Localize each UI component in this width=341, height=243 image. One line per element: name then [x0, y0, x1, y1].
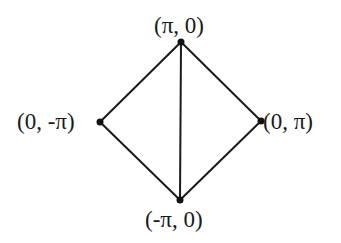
node-top [178, 39, 185, 46]
node-label-left: (0, -π) [17, 110, 75, 133]
edge-top-right [181, 42, 261, 121]
node-label-top: (π, 0) [154, 14, 204, 37]
node-label-right: (0, π) [263, 110, 313, 133]
edges [100, 42, 261, 200]
node-left [97, 119, 104, 126]
node-label-bottom: (-π, 0) [145, 208, 203, 231]
node-bottom [177, 197, 184, 204]
diagram-canvas: (π, 0) (0, -π) (0, π) (-π, 0) [0, 0, 341, 243]
edge-right-bottom [180, 121, 261, 200]
edge-left-bottom [100, 122, 180, 200]
edge-top-bottom [180, 42, 181, 200]
edge-top-left [100, 42, 181, 122]
